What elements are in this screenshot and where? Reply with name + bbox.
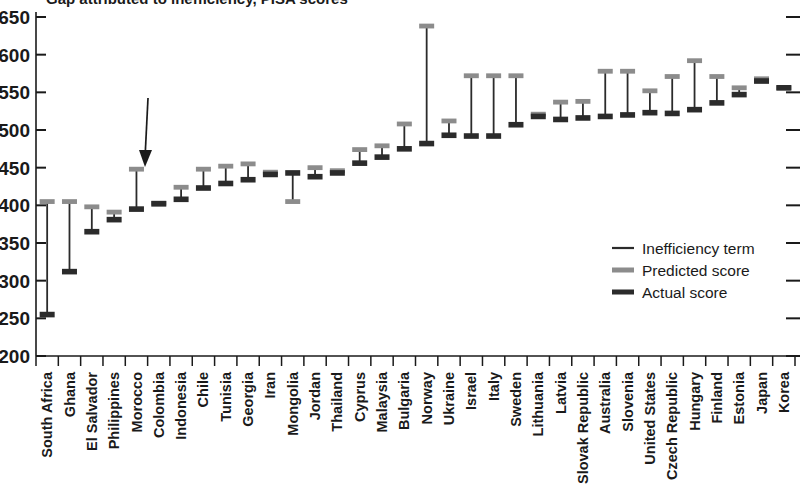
actual-score-cap bbox=[263, 172, 278, 178]
actual-score-cap bbox=[330, 170, 345, 176]
predicted-score-cap bbox=[419, 24, 434, 29]
y-tick-label: 550 bbox=[0, 82, 30, 103]
country-marker bbox=[419, 24, 434, 147]
x-axis-label: Georgia bbox=[240, 371, 256, 427]
chart-container: Gap attributed to inefficiency, PISA sco… bbox=[0, 0, 803, 490]
actual-score-cap bbox=[508, 122, 523, 128]
actual-score-cap bbox=[375, 154, 390, 160]
x-axis-label: Colombia bbox=[151, 371, 167, 438]
actual-score-cap bbox=[709, 100, 724, 106]
predicted-score-cap bbox=[620, 69, 635, 74]
predicted-score-cap bbox=[308, 165, 323, 170]
predicted-score-cap bbox=[687, 58, 702, 63]
x-axis-label: Iran bbox=[262, 372, 278, 399]
x-axis-label: Indonesia bbox=[173, 371, 189, 440]
actual-score-cap bbox=[441, 132, 456, 138]
y-tick-label: 600 bbox=[0, 45, 30, 66]
country-marker bbox=[575, 99, 590, 121]
predicted-score-cap bbox=[84, 204, 99, 209]
country-marker bbox=[218, 164, 233, 187]
actual-score-cap bbox=[196, 185, 211, 191]
x-axis-label: Jordan bbox=[307, 372, 323, 420]
country-marker bbox=[174, 185, 189, 202]
x-axis-label: Ghana bbox=[62, 371, 78, 417]
x-axis-label: Sweden bbox=[508, 372, 524, 427]
y-tick-label: 350 bbox=[0, 233, 30, 254]
country-marker bbox=[665, 74, 680, 116]
y-tick-label: 400 bbox=[0, 195, 30, 216]
country-marker bbox=[709, 74, 724, 106]
x-axis-label: Tunisia bbox=[218, 371, 234, 422]
country-marker bbox=[263, 170, 278, 177]
right-axis-ticks bbox=[786, 17, 800, 356]
actual-score-cap bbox=[687, 107, 702, 113]
actual-score-cap bbox=[62, 269, 77, 275]
x-axis-label: Estonia bbox=[731, 371, 747, 424]
x-axis-label: Finland bbox=[709, 372, 725, 424]
y-tick-label: 500 bbox=[0, 120, 30, 141]
actual-score-cap bbox=[151, 201, 166, 207]
predicted-score-cap bbox=[218, 164, 233, 169]
predicted-score-cap bbox=[352, 147, 367, 152]
country-marker bbox=[352, 147, 367, 166]
country-marker bbox=[441, 119, 456, 139]
country-marker bbox=[776, 85, 791, 91]
chart-title: Gap attributed to inefficiency, PISA sco… bbox=[46, 0, 348, 7]
x-axis-label: Cyprus bbox=[352, 372, 368, 422]
y-axis-ticks: 200250300350400450500550600650 bbox=[0, 7, 46, 367]
country-marker bbox=[62, 199, 77, 274]
y-tick-label: 650 bbox=[0, 7, 30, 28]
predicted-score-cap bbox=[40, 199, 55, 204]
actual-score-cap bbox=[397, 146, 412, 152]
predicted-score-cap bbox=[241, 162, 256, 167]
predicted-score-cap bbox=[464, 73, 479, 78]
legend-label: Actual score bbox=[642, 284, 727, 301]
country-marker bbox=[687, 58, 702, 112]
x-axis-label: Thailand bbox=[329, 372, 345, 432]
predicted-score-cap bbox=[285, 199, 300, 204]
annotation-arrow-head bbox=[139, 150, 152, 167]
x-axis-ticks bbox=[36, 356, 795, 366]
x-axis-label: Japan bbox=[754, 372, 770, 414]
actual-score-cap bbox=[352, 160, 367, 166]
country-marker bbox=[84, 204, 99, 234]
x-axis-label: Philippines bbox=[106, 372, 122, 449]
actual-score-cap bbox=[107, 217, 122, 223]
x-axis-label: Israel bbox=[463, 372, 479, 410]
predicted-score-cap bbox=[107, 210, 122, 215]
x-axis-label: Hungary bbox=[687, 372, 703, 431]
x-axis-label: Malaysia bbox=[374, 371, 390, 432]
actual-score-cap bbox=[84, 229, 99, 235]
actual-score-cap bbox=[531, 114, 546, 120]
actual-score-cap bbox=[308, 174, 323, 180]
predicted-score-cap bbox=[553, 100, 568, 105]
actual-score-cap bbox=[129, 206, 144, 212]
legend-swatch bbox=[612, 268, 634, 273]
predicted-score-cap bbox=[508, 73, 523, 78]
actual-score-cap bbox=[218, 181, 233, 187]
country-marker bbox=[732, 85, 747, 97]
x-axis-label: Czech Republic bbox=[664, 372, 680, 480]
y-tick-label: 200 bbox=[0, 346, 30, 367]
annotation-arrow-shaft bbox=[145, 98, 148, 158]
country-marker bbox=[308, 165, 323, 179]
y-tick-label: 300 bbox=[0, 271, 30, 292]
predicted-score-cap bbox=[441, 119, 456, 124]
actual-score-cap bbox=[598, 114, 613, 120]
predicted-score-cap bbox=[129, 167, 144, 172]
x-axis-label: Bulgaria bbox=[396, 371, 412, 430]
actual-score-cap bbox=[419, 141, 434, 147]
x-axis-label: Latvia bbox=[553, 371, 569, 414]
inefficiency-annotation bbox=[139, 98, 152, 167]
country-marker bbox=[531, 112, 546, 119]
x-axis-label: Slovak Republic bbox=[575, 372, 591, 484]
country-marker bbox=[464, 73, 479, 138]
x-axis-labels: South AfricaGhanaEl SalvadorPhilippinesM… bbox=[39, 371, 792, 484]
actual-score-cap bbox=[642, 110, 657, 116]
country-marker bbox=[642, 88, 657, 115]
x-axis-label: Ukraine bbox=[441, 372, 457, 425]
predicted-score-cap bbox=[62, 199, 77, 204]
predicted-score-cap bbox=[196, 167, 211, 172]
x-axis-label: United States bbox=[642, 372, 658, 465]
x-axis-label: Italy bbox=[486, 372, 502, 401]
